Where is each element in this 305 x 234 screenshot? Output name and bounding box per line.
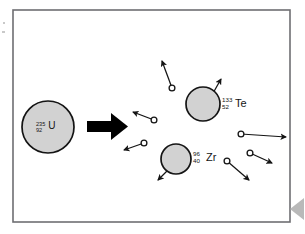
- zirconium-circle: [161, 144, 191, 174]
- neutron-1-dot: [169, 85, 175, 91]
- edge-specks: [2, 22, 5, 33]
- tellurium-circle: [186, 87, 220, 121]
- fission-diagram-svg: 235 92 U 133 52 Te 96 40 Zr: [0, 0, 305, 234]
- tellurium-symbol: Te: [235, 97, 247, 109]
- uranium-mass-number: 235: [36, 121, 45, 127]
- tellurium-atomic-number: 52: [222, 103, 229, 110]
- neutron-2-dot: [151, 117, 157, 123]
- zirconium-symbol: Zr: [206, 151, 217, 163]
- neutron-3-dot: [141, 140, 147, 146]
- neutron-5-dot: [247, 150, 253, 156]
- speck-top-left: [3, 22, 5, 24]
- uranium-atomic-number: 92: [36, 127, 42, 133]
- neutron-6-dot: [224, 158, 230, 164]
- fission-arrow-shaft: [87, 121, 111, 132]
- neutron-4-dot: [238, 131, 244, 137]
- speck-left: [2, 31, 5, 33]
- uranium-symbol: U: [48, 120, 55, 131]
- zirconium-atomic-number: 40: [193, 157, 200, 164]
- fission-diagram-figure: 235 92 U 133 52 Te 96 40 Zr: [0, 0, 305, 234]
- nav-marker-left-triangle[interactable]: [290, 198, 304, 220]
- nucleus-uranium: 235 92 U: [22, 101, 74, 153]
